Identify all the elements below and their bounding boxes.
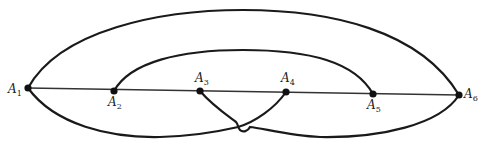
vertex-dot	[196, 87, 203, 94]
vertex-label: A5	[366, 98, 381, 114]
node-A6: A6	[455, 87, 477, 103]
edge-A2-A5-inner-arc	[114, 50, 373, 94]
edge-A1-A6-straight	[28, 88, 459, 95]
graph-diagram: A1 A2 A3 A4 A5 A6	[0, 0, 483, 147]
vertex-dot	[455, 91, 462, 98]
vertex-label: A2	[107, 95, 122, 111]
node-A2: A2	[107, 87, 122, 111]
edge-A1-A6-outer-arc	[28, 10, 459, 95]
vertex-dot	[110, 87, 117, 94]
vertex-dot	[24, 84, 31, 91]
vertex-label: A3	[194, 71, 209, 87]
edge-A3-A6-lower-curve	[200, 91, 459, 137]
vertex-dot	[369, 90, 376, 97]
vertex-label: A6	[463, 87, 478, 103]
vertex-dot	[282, 88, 289, 95]
vertex-label: A4	[280, 71, 295, 87]
node-A1: A1	[7, 82, 32, 98]
vertex-label: A1	[7, 82, 22, 98]
